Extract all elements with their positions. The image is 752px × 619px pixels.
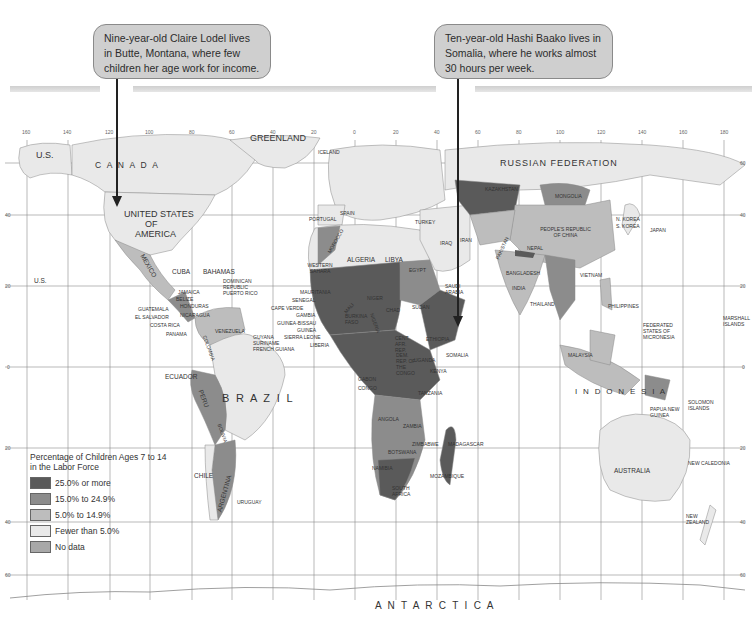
lon-tick: 120 [597,129,605,135]
lon-tick: 20 [311,129,317,135]
lat-tick: 60 [740,160,746,166]
label-belize: BELIZE [176,296,193,302]
label-turkey: TURKEY [415,219,435,225]
label-mongolia: MONGOLIA [555,193,582,199]
lat-tick: 0 [742,364,745,370]
legend-swatch [30,477,51,489]
label-iceland: ICELAND [318,149,340,155]
label-western-sahara: WESTERN SAHARA [305,262,335,274]
label-sudan: SUDAN [412,304,430,310]
legend-item: Fewer than 5.0% [30,523,170,539]
australia-shape [599,414,690,501]
lon-tick: 180 [720,129,728,135]
label-cape-verde: CAPE VERDE [271,305,303,311]
label-dominican: DOMINICAN REPUBLIC [223,278,263,290]
lat-tick: 60 [740,572,746,578]
lon-tick: 160 [679,129,687,135]
lat-tick: 0 [7,364,10,370]
alaska-shape [19,143,72,178]
label-dem-rep-congo: DEM. REP. OF THE CONGO [396,352,416,376]
lon-tick: 120 [105,129,113,135]
label-russia: RUSSIAN FEDERATION [500,158,618,168]
label-iran: IRAN [460,237,472,243]
lat-tick: 40 [740,519,746,525]
lat-tick: 40 [740,212,746,218]
label-egypt: EGYPT [409,267,426,273]
label-algeria: ALGERIA [347,256,375,263]
label-solomon: SOLOMON ISLANDS [688,399,716,411]
label-cent-afr: CENT. AFR. REP. [395,335,413,353]
lon-tick: 100 [556,129,564,135]
label-bahamas: BAHAMAS [203,268,235,275]
label-canada: C A N A D A [95,159,160,171]
lon-tick: 160 [22,129,30,135]
label-puerto-rico: PUERTO RICO [223,290,258,296]
lon-tick: 40 [434,129,440,135]
label-china: PEOPLE'S REPUBLIC OF CHINA [538,226,593,238]
label-burkina: BURKINA FASO [345,313,365,325]
label-nepal: NEPAL [527,245,543,251]
callout-claire-lodel: Nine-year-old Claire Lodel lives in Butt… [93,24,271,79]
label-greenland: GREENLAND [250,133,306,143]
label-guatemala: GUATEMALA [138,306,168,312]
label-spain: SPAIN [340,210,355,216]
lat-tick: 20 [5,283,11,289]
legend-swatch [30,525,51,537]
label-angola: ANGOLA [378,416,399,422]
label-kazakhstan: KAZAKHSTAN [485,186,518,192]
legend-label: 5.0% to 14.9% [55,510,110,520]
label-philippines: PHILIPPINES [608,303,639,309]
legend-label: 25.0% or more [55,478,111,488]
label-japan: JAPAN [650,227,666,233]
label-australia: AUSTRALIA [614,468,650,474]
legend-item: 15.0% to 24.9% [30,491,170,507]
label-uganda: UGANDA [414,357,435,363]
lat-tick: 60 [5,572,11,578]
label-somalia: SOMALIA [446,352,468,358]
arrowhead-icon [453,316,463,327]
label-namibia: NAMIBIA [372,465,393,471]
label-usa-3: AMERICA [135,229,176,239]
label-us-hawaii: U.S. [34,277,47,284]
label-marshall: MARSHALL ISLANDS [723,315,748,327]
label-ecuador: ECUADOR [165,373,198,380]
legend-swatch [30,493,51,505]
lat-tick: 20 [5,445,11,451]
label-botswana: BOTSWANA [388,449,416,455]
label-usa-1: UNITED STATES [124,209,194,219]
label-guinea-bissau: GUINEA-BISSAU [277,320,316,326]
lon-tick: 80 [516,129,522,135]
label-south-africa: SOUTH AFRICA [392,485,410,497]
label-sierra-leone: SIERRA LEONE [284,334,321,340]
label-mozambique: MOZAMBIQUE [430,473,464,479]
label-el-salvador: EL SALVADOR [135,314,169,320]
label-zimbabwe: ZIMBABWE [412,441,439,447]
legend-label: Fewer than 5.0% [55,526,119,536]
label-honduras: HONDURAS [180,303,209,309]
label-png: PAPUA NEW GUINEA [650,406,680,418]
southeast-asia-shape [545,255,575,320]
label-kenya: KENYA [430,368,447,374]
label-iraq: IRAQ [440,240,452,246]
label-malaysia: MALAYSIA [568,352,593,358]
label-zambia: ZAMBIA [403,423,422,429]
label-saudi: SAUDI ARABIA [445,283,467,295]
label-chad: CHAD [386,307,400,313]
new-zealand-shape [700,505,716,545]
label-portugal: PORTUGAL [309,216,336,222]
lon-tick: 60 [475,129,481,135]
label-cuba: CUBA [172,268,190,275]
label-antarctica: A N T A R C T I C A [375,600,495,612]
label-costa-rica: COSTA RICA [150,322,180,328]
lon-tick: 80 [189,129,195,135]
lon-tick: 20 [393,129,399,135]
legend-label: 15.0% to 24.9% [55,494,115,504]
lat-tick: 40 [5,212,11,218]
label-libya: LIBYA [385,256,403,263]
label-s-korea: S. KOREA [616,223,640,229]
label-gabon: GABON [358,376,376,382]
label-niger: NIGER [367,295,383,301]
europe-shape [328,145,445,220]
label-bangladesh: BANGLADESH [506,270,540,276]
label-us-alaska: U.S. [36,150,54,160]
